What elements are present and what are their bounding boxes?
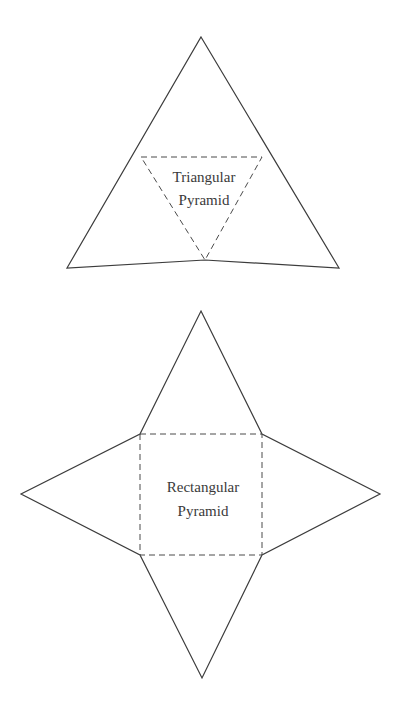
triangular-net-outline: [67, 37, 339, 268]
rectangular-label-line-2: Pyramid: [178, 503, 229, 519]
triangular-label-line-2: Pyramid: [179, 192, 230, 208]
triangular-label-line-1: Triangular: [173, 169, 236, 185]
triangular-pyramid-net: Triangular Pyramid: [67, 37, 339, 268]
diagram-canvas: Triangular Pyramid Rectangular Pyramid: [0, 0, 406, 714]
rectangular-label-line-1: Rectangular: [167, 479, 239, 495]
rectangular-pyramid-net: Rectangular Pyramid: [21, 311, 380, 678]
